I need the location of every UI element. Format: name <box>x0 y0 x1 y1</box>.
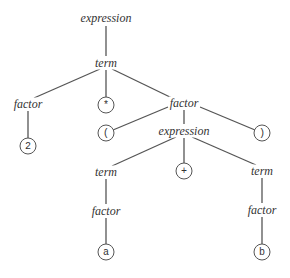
token-b: b <box>254 244 271 261</box>
node-term: term <box>94 57 118 70</box>
node-factor-right: factor <box>169 97 200 110</box>
token-a: a <box>98 244 115 261</box>
node-factor-a: factor <box>91 205 122 218</box>
node-expression-root: expression <box>80 12 133 25</box>
token-lparen: ( <box>98 125 115 142</box>
node-term-left: term <box>94 166 118 179</box>
node-term-right: term <box>250 165 274 178</box>
token-rparen: ) <box>254 125 271 142</box>
tree-edges <box>0 0 290 278</box>
node-factor-b: factor <box>247 204 278 217</box>
token-times: * <box>98 97 115 114</box>
node-expression-inner: expression <box>158 125 211 138</box>
token-two: 2 <box>20 138 37 155</box>
token-plus: + <box>176 163 193 180</box>
node-factor-left: factor <box>13 98 44 111</box>
